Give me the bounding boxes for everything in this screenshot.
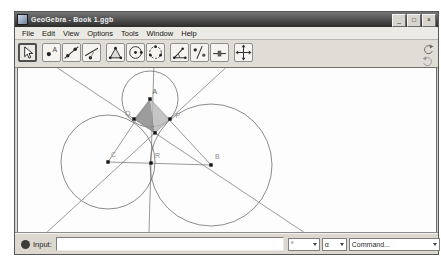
menu-item-view[interactable]: View [59, 29, 83, 38]
input-help-icon[interactable] [21, 240, 30, 249]
circle-three-points-icon [147, 44, 164, 61]
chevron-down-icon [313, 243, 317, 246]
geo-point-A[interactable] [148, 97, 151, 100]
geo-point-B[interactable] [209, 163, 212, 166]
maximize-button[interactable]: □ [407, 14, 421, 27]
symbol-dropdown-value: ° [291, 241, 294, 248]
menu-item-file[interactable]: File [18, 29, 38, 38]
reflect-icon [191, 44, 208, 61]
chevron-down-icon [433, 243, 437, 246]
tool-move-drawing-pad[interactable] [234, 43, 253, 62]
menu-item-window[interactable]: Window [143, 29, 178, 38]
undo-icon[interactable] [422, 41, 434, 53]
window-title: GeoGebra - Book 1.ggb [31, 16, 113, 23]
input-bar: Input: ° α Command... [15, 233, 438, 254]
geo-point-R[interactable] [149, 161, 152, 164]
tool-reflect-about-line[interactable] [190, 43, 209, 62]
slider-icon [211, 44, 228, 61]
tool-slider[interactable] [210, 43, 229, 62]
perpendicular-line-icon [83, 44, 100, 61]
tool-line-through-two-points[interactable] [62, 43, 81, 62]
move-arrow-icon [20, 45, 35, 60]
menu-item-options[interactable]: Options [83, 29, 117, 38]
geo-line-tangent-p[interactable] [47, 68, 225, 232]
greek-letter-dropdown[interactable]: α [322, 238, 347, 251]
geogebra-app-icon [17, 14, 28, 25]
redo-icon[interactable] [422, 53, 434, 65]
command-input-field[interactable] [56, 237, 284, 251]
tool-new-point[interactable]: A [42, 43, 61, 62]
tool-polygon[interactable] [106, 43, 125, 62]
line-icon [63, 44, 80, 61]
geo-point-Q[interactable] [132, 117, 135, 120]
geo-label-P: P [176, 112, 181, 119]
angle-icon [171, 44, 188, 61]
geo-point-P[interactable] [168, 117, 171, 120]
geo-label-C: C [111, 151, 116, 158]
geo-point-C[interactable] [106, 160, 109, 163]
tool-angle[interactable] [170, 43, 189, 62]
tool-bar: A [15, 40, 438, 68]
geometry-drawing[interactable]: AQPCRB [18, 68, 436, 232]
geogebra-window: GeoGebra - Book 1.ggb _ □ × FileEditView… [14, 11, 439, 255]
geo-label-A: A [153, 88, 158, 95]
menu-item-edit[interactable]: Edit [38, 29, 59, 38]
chevron-down-icon [340, 243, 344, 246]
symbol-dropdown[interactable]: ° [288, 238, 320, 251]
menu-item-help[interactable]: Help [177, 29, 200, 38]
screenshot-root: GeoGebra - Book 1.ggb _ □ × FileEditView… [0, 0, 441, 260]
tool-move[interactable] [18, 43, 37, 62]
polygon-icon [107, 44, 124, 61]
close-button[interactable]: × [422, 14, 436, 27]
title-bar: GeoGebra - Book 1.ggb _ □ × [15, 12, 438, 27]
tool-circle-three-points[interactable] [146, 43, 165, 62]
greek-dropdown-value: α [325, 241, 329, 248]
command-dropdown[interactable]: Command... [349, 238, 440, 251]
minimize-button[interactable]: _ [392, 14, 406, 27]
new-point-icon: A [43, 44, 60, 61]
menu-bar: FileEditViewOptionsToolsWindowHelp [15, 27, 438, 40]
window-controls: _ □ × [392, 14, 436, 27]
command-dropdown-value: Command... [352, 241, 390, 248]
move-drawing-pad-icon [235, 44, 252, 61]
circle-center-point-icon [127, 44, 144, 61]
svg-text:A: A [53, 46, 58, 53]
geo-point-X[interactable] [153, 131, 156, 134]
tool-circle-center-point[interactable] [126, 43, 145, 62]
geo-segment-CB[interactable] [108, 162, 211, 165]
menu-item-tools[interactable]: Tools [117, 29, 143, 38]
geo-label-Q: Q [125, 110, 131, 118]
geo-label-B: B [215, 153, 220, 160]
tool-perpendicular-line[interactable] [82, 43, 101, 62]
graphics-view[interactable]: AQPCRB [17, 67, 437, 233]
input-label: Input: [33, 240, 52, 249]
geo-label-R: R [155, 152, 160, 159]
